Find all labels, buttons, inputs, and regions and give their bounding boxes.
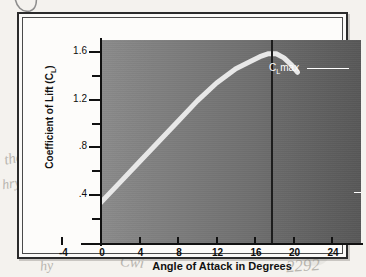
x-tick-label: 12 [203,247,233,258]
y-axis-title: Coefficient of Lift (CL) [44,42,58,192]
lift-curve [101,40,361,243]
x-axis-title: Angle of Attack in Degrees [81,260,363,272]
y-tick [89,146,101,148]
margin-scribble: hy [39,257,54,274]
scanned-page: the hry 22oA 2292 hy Cwi CLmax Stall .4.… [0,0,366,277]
figure-frame: CLmax Stall .4.81.21.6 -404812162024 Coe… [17,12,348,259]
x-tick [331,237,333,245]
annotation-clmax: CLmax [269,62,299,76]
y-tick [92,123,101,125]
x-tick [139,237,141,245]
x-tick-label: -4 [48,247,78,258]
x-axis-line [81,243,363,245]
x-tick-label: 8 [164,247,194,258]
plot-area: CLmax Stall [101,40,361,243]
x-tick-label: 0 [87,247,117,258]
y-axis-title-sub: L [49,69,58,73]
x-tick-label: 24 [318,247,348,258]
stall-leader-line [354,192,361,193]
x-tick [100,237,102,245]
x-tick [216,237,218,245]
y-axis-line [100,38,102,246]
y-axis-title-tail: ) [44,65,55,68]
clmax-text-tail: max [280,62,299,73]
x-tick [61,237,63,245]
x-tick-label: 16 [241,247,271,258]
y-tick [89,194,101,196]
y-tick [92,75,101,77]
x-tick-label: 20 [280,247,310,258]
x-tick [177,237,179,245]
y-tick [92,218,101,220]
x-tick [293,237,295,245]
figure-inner-border: CLmax Stall .4.81.21.6 -404812162024 Coe… [22,17,343,254]
x-tick [254,237,256,245]
x-tick-label: 4 [126,247,156,258]
y-tick [89,51,101,53]
clmax-leader-line [307,68,349,69]
y-tick [92,170,101,172]
y-axis-title-main: Coefficient of Lift (C [44,73,55,169]
y-tick [89,99,101,101]
